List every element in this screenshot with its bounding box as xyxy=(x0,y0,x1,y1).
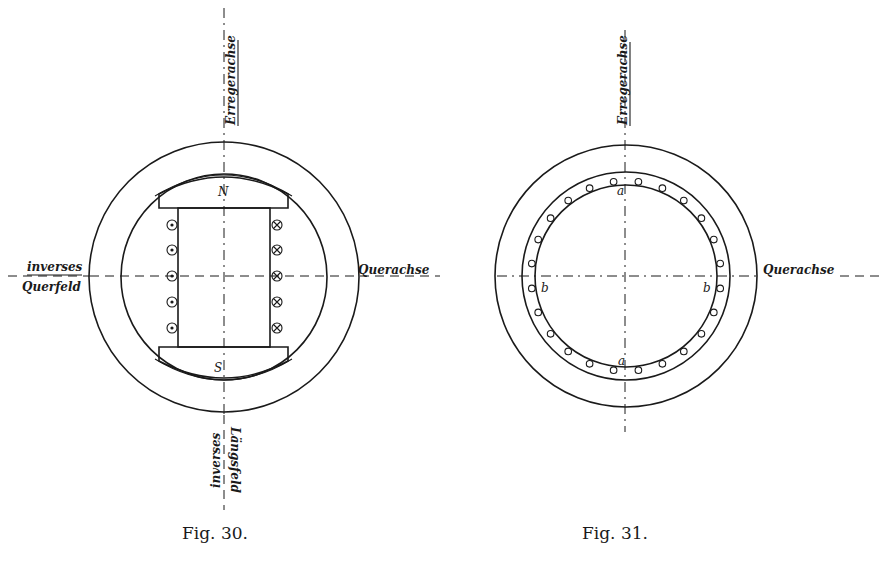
south-pole-label: S xyxy=(214,361,222,375)
quadrature-axis-label: Querachse xyxy=(358,263,430,277)
slot-conductor-icon xyxy=(610,179,617,186)
inverse-longitudinal-field-label-line2: Längsfeld xyxy=(228,426,242,493)
point-a-top-label: a xyxy=(617,184,624,198)
figure-31: a a b b Erregerachse Querachse xyxy=(495,30,885,432)
slot-conductor-icon xyxy=(681,197,688,204)
slot-conductor-icon xyxy=(659,185,666,192)
slot-conductor-icon xyxy=(711,236,718,243)
inverse-cross-field-label-line1: inverses xyxy=(27,260,83,274)
slot-conductor-icon xyxy=(535,236,542,243)
diagram-canvas: N S Erregerachse inverses Querfeld Quera… xyxy=(0,0,893,570)
slot-conductor-icon xyxy=(529,260,536,267)
quadrature-axis-label: Querachse xyxy=(763,263,835,277)
slot-conductor-icon xyxy=(547,331,554,338)
conductor-cross-icon xyxy=(272,297,282,307)
conductor-cross-icon xyxy=(272,323,282,333)
slot-conductor-icon xyxy=(529,285,536,292)
slot-conductor-icon xyxy=(635,179,642,186)
point-b-right-label: b xyxy=(703,281,711,295)
slot-conductor-icon xyxy=(565,197,572,204)
slot-conductor-icon xyxy=(547,215,554,222)
inverse-cross-field-label-line2: Querfeld xyxy=(22,280,81,294)
slot-conductor-icon xyxy=(565,348,572,355)
point-a-bottom-label: a xyxy=(618,354,625,368)
conductor-cross-icon xyxy=(272,220,282,230)
slot-conductor-icon xyxy=(698,331,705,338)
slot-conductor-icon xyxy=(698,215,705,222)
figure-30-caption: Fig. 30. xyxy=(182,523,248,543)
slot-conductor-icon xyxy=(717,260,724,267)
slot-conductor-icon xyxy=(711,309,718,316)
point-b-left-label: b xyxy=(541,281,549,295)
slot-conductor-icon xyxy=(535,309,542,316)
figure-31-caption: Fig. 31. xyxy=(582,523,648,543)
excitation-axis-label: Erregerachse xyxy=(616,35,630,126)
slot-conductor-icon xyxy=(610,367,617,374)
excitation-axis-label: Erregerachse xyxy=(224,35,238,126)
north-pole-label: N xyxy=(217,185,229,199)
slot-conductor-icon xyxy=(586,185,593,192)
conductor-cross-icon xyxy=(272,245,282,255)
slot-conductor-icon xyxy=(635,367,642,374)
inverse-longitudinal-field-label-line1: inverses xyxy=(209,432,223,488)
slot-conductor-icon xyxy=(659,361,666,368)
slot-conductor-icon xyxy=(717,285,724,292)
slot-conductor-icon xyxy=(681,348,688,355)
figure-30: N S Erregerachse inverses Querfeld Quera… xyxy=(8,8,440,510)
slot-conductor-icon xyxy=(586,361,593,368)
